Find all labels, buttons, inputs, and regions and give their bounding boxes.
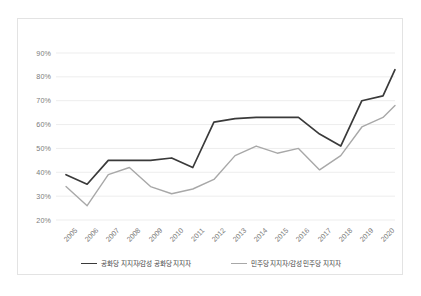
y-axis-tick-label: 50% [25,144,51,153]
y-axis-tick-label: 70% [25,96,51,105]
legend-item-label: 민주당 지지자/감성 민주당 지지자 [251,258,341,268]
y-axis-tick-label: 80% [25,72,51,81]
legend-item-label: 공화당 지지자/감성 공화당 지지자 [101,258,191,268]
series-lines-group [66,70,395,206]
chart-card: 90%80%70%60%50%40%30%20% 200520062007200… [17,18,403,275]
gridlines-group [56,53,395,220]
legend-line-swatch-icon [231,263,247,264]
series-line-2 [66,105,395,205]
y-axis-tick-label: 90% [25,49,51,58]
series-line-1 [66,70,395,185]
legend-item-1[interactable]: 공화당 지지자/감성 공화당 지지자 [81,258,191,268]
legend-line-swatch-icon [81,263,97,264]
y-axis-tick-label: 40% [25,168,51,177]
y-axis-tick-label: 20% [25,216,51,225]
y-axis-tick-label: 60% [25,120,51,129]
chart-legend: 공화당 지지자/감성 공화당 지지자민주당 지지자/감성 민주당 지지자 [18,258,404,268]
line-chart-plot-area: 90%80%70%60%50%40%30%20% 200520062007200… [18,19,404,276]
legend-item-2[interactable]: 민주당 지지자/감성 민주당 지지자 [231,258,341,268]
y-axis-tick-label: 30% [25,192,51,201]
